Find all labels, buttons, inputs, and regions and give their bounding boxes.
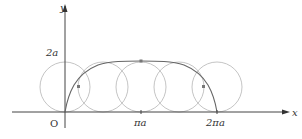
point-marker <box>140 60 143 63</box>
cycloid-curve <box>65 61 217 112</box>
circle-2 <box>78 62 128 112</box>
x-tick-label-2pi-a: 2πa <box>205 117 225 128</box>
cycloid-diagram: y x O 2a πa 2πa <box>0 0 302 139</box>
origin-label: O <box>50 118 58 129</box>
y-axis-label: y <box>59 2 66 13</box>
x-axis-arrow-icon <box>282 110 290 115</box>
x-axis-label: x <box>292 107 298 118</box>
circle-3 <box>116 62 166 112</box>
point-marker <box>77 85 80 88</box>
curve-points <box>77 60 205 89</box>
x-tick-label-pi-a: πa <box>133 117 147 128</box>
y-tick-label: 2a <box>45 47 58 58</box>
axes <box>12 10 284 128</box>
point-marker <box>202 85 205 88</box>
circle-4 <box>154 62 204 112</box>
circle-5 <box>192 62 242 112</box>
rolling-circles <box>40 62 242 112</box>
